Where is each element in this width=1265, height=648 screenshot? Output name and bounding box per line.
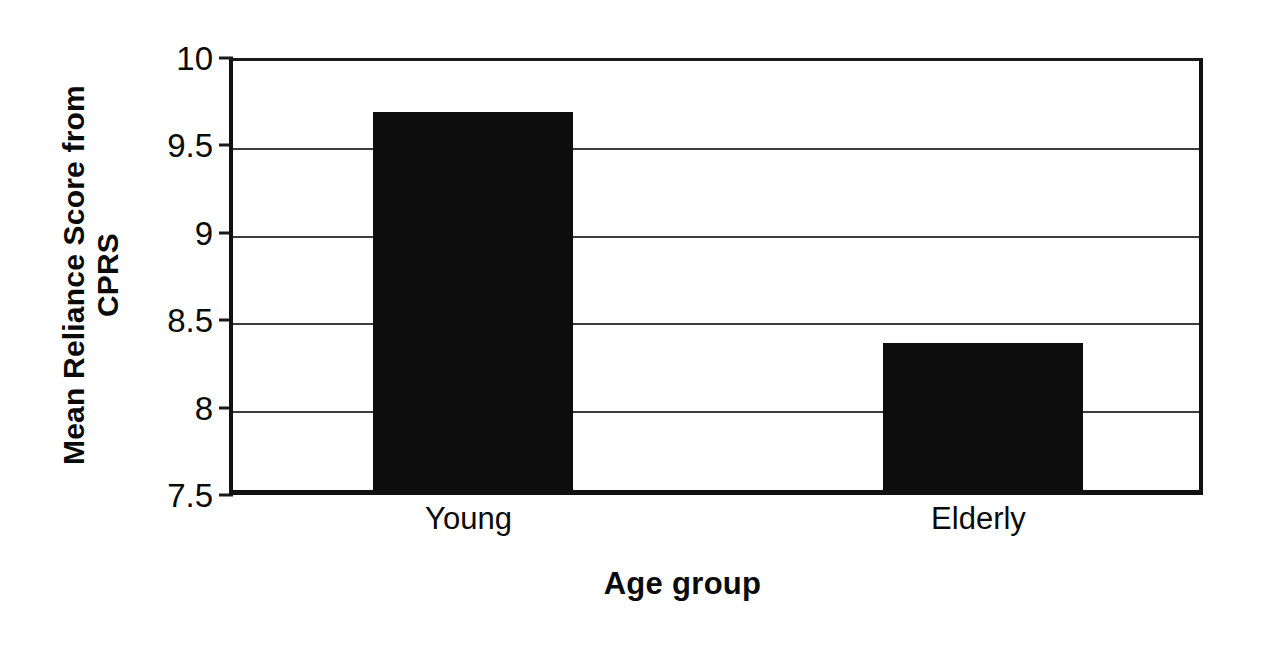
y-axis-title: Mean Reliance Score from CPRS bbox=[46, 40, 136, 510]
y-tick-label: 9.5 bbox=[167, 129, 219, 162]
x-axis-title: Age group bbox=[0, 566, 1265, 602]
x-tick-label-elderly: Elderly bbox=[931, 503, 1026, 534]
y-axis-title-text: Mean Reliance Score from CPRS bbox=[57, 40, 124, 510]
bar-chart-figure: Mean Reliance Score from CPRS 10 9.5 9 8… bbox=[0, 0, 1265, 648]
x-tick-label-young: Young bbox=[425, 503, 512, 534]
y-tick-label: 10 bbox=[176, 42, 219, 75]
y-axis-tick-labels: 10 9.5 9 8.5 8 7.5 bbox=[140, 0, 219, 648]
plot-inner bbox=[233, 61, 1199, 490]
y-tick-label: 9 bbox=[195, 216, 219, 249]
bar-elderly bbox=[883, 343, 1083, 490]
y-tick-label: 8.5 bbox=[167, 304, 219, 337]
x-axis-title-text: Age group bbox=[604, 566, 762, 602]
y-tick-label: 7.5 bbox=[167, 479, 219, 512]
bar-young bbox=[373, 112, 573, 490]
y-tick-label: 8 bbox=[195, 391, 219, 424]
plot-area bbox=[229, 58, 1203, 495]
